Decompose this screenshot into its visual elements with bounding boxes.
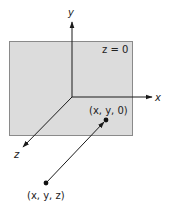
point-projected [104, 118, 109, 123]
z-axis-label: z [13, 149, 20, 160]
projection-diagram: y x z z = 0 (x, y, 0) (x, y, z) [0, 0, 173, 207]
point-projected-label: (x, y, 0) [89, 105, 128, 116]
point-original-label: (x, y, z) [27, 190, 65, 201]
y-axis-label: y [67, 7, 75, 18]
point-original [44, 181, 49, 186]
diagram-svg: y x z z = 0 (x, y, 0) (x, y, z) [0, 0, 173, 207]
z-plane [10, 42, 133, 136]
plane-label: z = 0 [102, 44, 128, 55]
x-axis-label: x [154, 92, 161, 103]
